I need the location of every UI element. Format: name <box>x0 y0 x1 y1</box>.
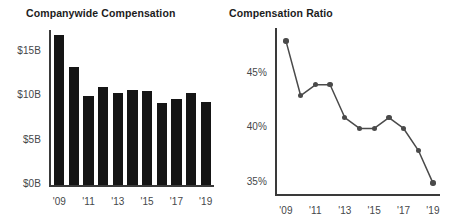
y-axis-line <box>49 30 51 186</box>
bar <box>83 96 93 185</box>
bar <box>98 87 108 185</box>
line-series-path <box>225 0 449 223</box>
data-point-marker <box>430 180 435 185</box>
line-chart-plot-area: 35%40%45%'09'11'13'15'17'19 <box>225 0 449 223</box>
bar <box>113 93 123 185</box>
bar <box>54 35 64 185</box>
data-point-marker <box>386 115 391 120</box>
bar <box>186 93 196 185</box>
y-axis-tick-label: $10B <box>0 89 41 100</box>
bar <box>201 102 211 185</box>
y-axis-tick-label: $0B <box>0 178 41 189</box>
y-axis-tick-label: $15B <box>0 45 41 56</box>
compensation-ratio-panel: Compensation Ratio 35%40%45%'09'11'13'15… <box>225 0 449 223</box>
x-axis-tick-label: '19 <box>415 205 449 216</box>
bar <box>171 99 181 185</box>
data-point-marker <box>283 38 288 43</box>
companywide-compensation-panel: Companywide Compensation $0B$5B$10B$15B'… <box>0 0 225 223</box>
bar <box>69 67 79 185</box>
bar-chart-plot-area: $0B$5B$10B$15B'09'11'13'15'17'19 <box>0 0 225 223</box>
data-point-marker <box>372 126 377 131</box>
y-axis-tick-label: $5B <box>0 134 41 145</box>
x-axis-line <box>49 185 214 187</box>
x-axis-tick-label: '19 <box>188 196 224 207</box>
data-point-marker <box>416 148 421 153</box>
compensation-charts-figure: Companywide Compensation $0B$5B$10B$15B'… <box>0 0 449 223</box>
bar <box>157 103 167 185</box>
bar <box>127 90 137 185</box>
bar <box>142 91 152 185</box>
